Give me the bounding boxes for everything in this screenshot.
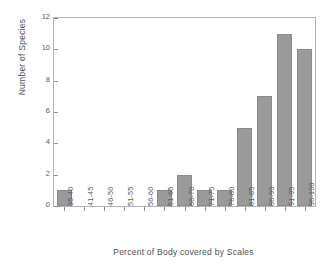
y-axis-tick-label: 0 (34, 201, 50, 209)
y-axis-tick-mark (54, 18, 58, 19)
x-axis-tick-label: 76-80 (227, 187, 236, 206)
x-axis-tick-label: 81-85 (247, 187, 256, 206)
y-axis-tick-label: 8 (34, 76, 50, 84)
bar (277, 34, 292, 206)
y-axis-tick-label: 4 (34, 138, 50, 146)
histogram-chart: Number of Species 024681012 35-4041-4546… (0, 0, 330, 266)
x-axis-tick-label: 91-95 (287, 187, 296, 206)
x-axis-tick-labels: 35-4041-4546-5051-5556-6061-6566-7071-75… (53, 206, 314, 240)
plot-area (53, 17, 316, 207)
y-axis-tick-label: 12 (34, 13, 50, 21)
x-axis-tick-label: 86-90 (267, 187, 276, 206)
y-axis-tick-mark (54, 81, 58, 82)
y-axis-tick-label: 6 (34, 107, 50, 115)
x-axis-tick-label: 71-75 (207, 187, 216, 206)
y-axis-tick-mark (54, 143, 58, 144)
x-axis-tick-label: 96-100 (307, 182, 316, 206)
y-axis-tick-mark (54, 175, 58, 176)
x-axis-tick-label: 41-45 (86, 187, 95, 206)
x-axis-tick-label: 46-50 (106, 187, 115, 206)
x-axis-tick-label: 66-70 (187, 187, 196, 206)
x-axis-title: Percent of Body covered by Scales (53, 247, 314, 257)
x-axis-tick-label: 35-40 (66, 187, 75, 206)
x-axis-tick-label: 51-55 (126, 187, 135, 206)
x-axis-tick-label: 61-65 (166, 187, 175, 206)
y-axis-tick-label: 2 (34, 170, 50, 178)
y-axis-tick-label: 10 (34, 44, 50, 52)
y-axis-tick-mark (54, 49, 58, 50)
y-axis-tick-mark (54, 112, 58, 113)
y-axis-tick-labels: 024681012 (33, 0, 50, 266)
x-axis-tick-label: 56-60 (146, 187, 155, 206)
y-axis-title: Number of Species (17, 0, 27, 137)
